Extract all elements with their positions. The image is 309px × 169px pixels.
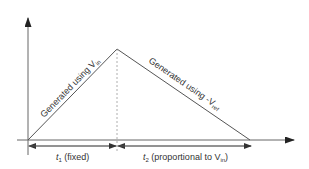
ramp-up-label: Generated using Vin bbox=[38, 55, 102, 120]
ramp-down-label: Generated using -Vref bbox=[146, 55, 223, 112]
t1-label: t1 (fixed) bbox=[56, 152, 89, 163]
ramp-up-line bbox=[28, 49, 117, 140]
t2-label: t2 (proportional to Vin) bbox=[143, 152, 228, 163]
ramp-down-line bbox=[117, 49, 250, 140]
waveform-diagram: Generated using Vin Generated using -Vre… bbox=[0, 0, 309, 169]
